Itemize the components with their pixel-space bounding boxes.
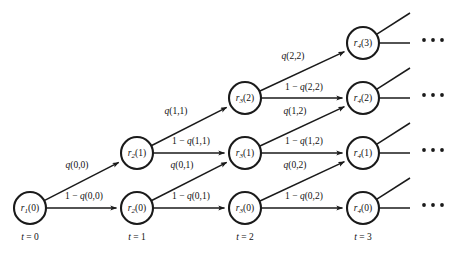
ellipsis-dot [431,148,435,152]
state-node[interactable]: r3(0) [229,192,261,224]
ellipsis-dot [440,148,444,152]
transition-probability-label: q(0,0) [66,160,89,171]
ellipsis-dot [440,93,444,97]
state-node[interactable]: r4(3) [347,27,379,59]
state-node[interactable]: r4(1) [347,137,379,169]
ellipsis-dot [431,38,435,42]
transition-probability-label: 1 − q(1,2) [285,136,323,147]
state-node[interactable]: r1(0) [14,192,46,224]
ellipsis-dot [422,148,426,152]
state-node[interactable]: r4(0) [347,192,379,224]
transition-probability-label: q(1,2) [284,106,307,117]
diagram-canvas: r1(0)r2(0)r2(1)r3(0)r3(1)r3(2)r4(0)r4(1)… [0,0,453,255]
transition-probability-label: 1 − q(0,1) [172,191,210,202]
continuation-line-diagonal [377,68,410,89]
continuation-line-diagonal [377,13,410,34]
continuation-line-diagonal [377,178,410,199]
ellipsis-dot [431,203,435,207]
time-step-label: t = 0 [21,232,39,242]
time-step-label: t = 1 [128,232,146,242]
transition-probability-label: q(1,1) [165,106,188,117]
transition-probability-label: 1 − q(0,0) [65,191,103,202]
time-step-label: t = 3 [354,232,372,242]
continuation-ellipsis [422,38,444,42]
continuation-ellipsis [422,93,444,97]
state-node[interactable]: r2(1) [121,137,153,169]
ellipsis-dot [431,93,435,97]
ellipsis-dot [422,93,426,97]
continuation-ellipsis [422,148,444,152]
state-node[interactable]: r2(0) [121,192,153,224]
tail-layer [377,13,410,208]
transition-probability-label: q(0,1) [171,160,194,171]
continuation-line-diagonal [377,123,410,144]
ellipsis-dot [422,203,426,207]
state-node[interactable]: r3(1) [229,137,261,169]
time-step-label: t = 2 [236,232,254,242]
ellipsis-layer [422,38,444,207]
state-node[interactable]: r4(2) [347,82,379,114]
trellis-diagram: r1(0)r2(0)r2(1)r3(0)r3(1)r3(2)r4(0)r4(1)… [0,0,453,255]
transition-probability-label: q(0,2) [284,160,307,171]
continuation-ellipsis [422,203,444,207]
state-node[interactable]: r3(2) [229,82,261,114]
ellipsis-dot [440,203,444,207]
transition-probability-label: 1 − q(1,1) [172,136,210,147]
transition-probability-label: q(2,2) [282,51,305,62]
edge-layer [45,52,345,208]
time-axis-layer: t = 0t = 1t = 2t = 3 [21,232,372,242]
transition-probability-label: 1 − q(0,2) [285,191,323,202]
ellipsis-dot [422,38,426,42]
ellipsis-dot [440,38,444,42]
transition-probability-label: 1 − q(2,2) [285,82,323,93]
